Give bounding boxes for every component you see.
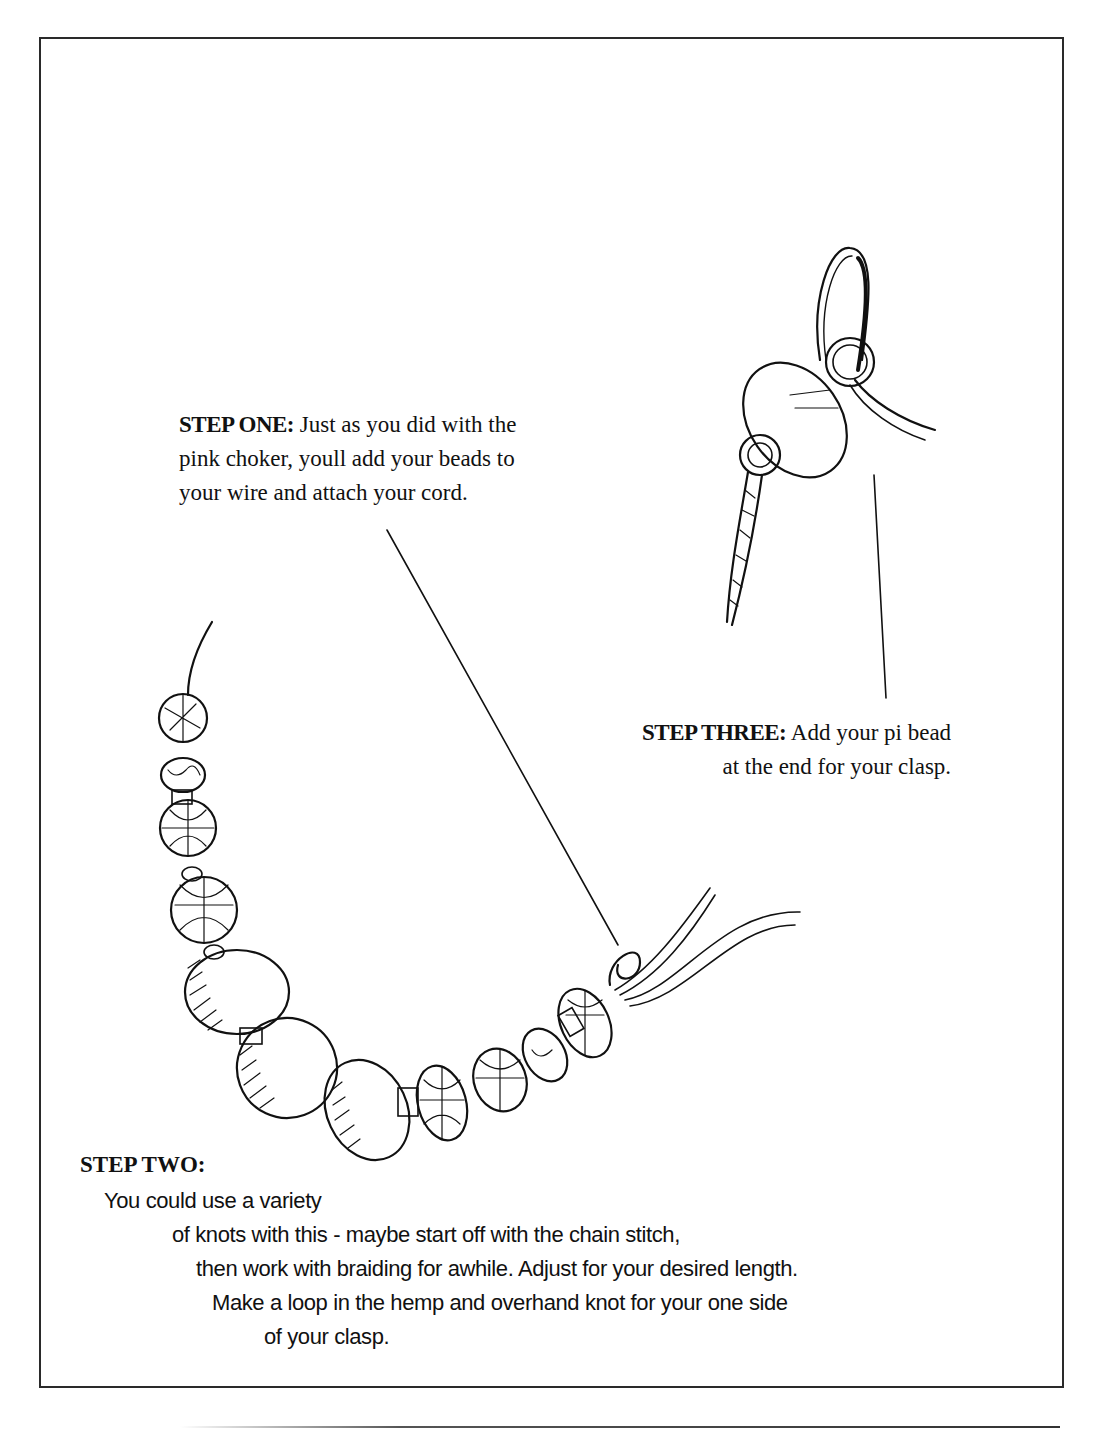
step-two-line-4: Make a loop in the hemp and overhand kno… (212, 1286, 788, 1320)
step-two-line-1: You could use a variety (104, 1184, 321, 1218)
step-one-line-1: STEP ONE: Just as you did with the (179, 408, 516, 442)
step-one-text: Just as you did with the (300, 412, 517, 437)
step-one-label: STEP ONE: (179, 412, 294, 437)
beaded-necklace-drawing (159, 622, 800, 1174)
step-two-line-3: then work with braiding for awhile. Adju… (196, 1252, 798, 1286)
step-one-block: STEP ONE: Just as you did with the pink … (179, 408, 516, 510)
step-three-block: STEP THREE: Add your pi bead at the end … (642, 716, 951, 784)
step-one-line-2: pink choker, youll add your beads to (179, 442, 516, 476)
step-one-line-3: your wire and attach your cord. (179, 476, 516, 510)
step-three-line-2: at the end for your clasp. (642, 750, 951, 784)
step-two-label: STEP TWO: (80, 1148, 205, 1182)
step-three-label: STEP THREE: (642, 720, 786, 745)
step-three-text: Add your pi bead (791, 720, 951, 745)
step-three-line-1: STEP THREE: Add your pi bead (642, 716, 951, 750)
step-three-pointer-line (874, 475, 886, 698)
step-one-pointer-line (387, 530, 618, 945)
pi-bead-clasp-drawing (722, 248, 935, 625)
step-two-line-5: of your clasp. (264, 1320, 389, 1354)
step-two-line-2: of knots with this - maybe start off wit… (172, 1218, 680, 1252)
